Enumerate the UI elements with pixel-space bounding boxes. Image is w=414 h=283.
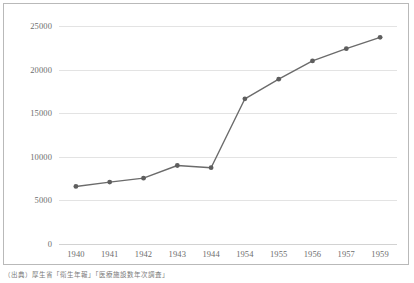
plot-area: 0500010000150002000025000 bbox=[59, 26, 397, 244]
y-tick-label: 15000 bbox=[30, 108, 52, 118]
data-point-marker bbox=[276, 77, 281, 82]
y-tick-label: 10000 bbox=[30, 152, 52, 162]
data-point-marker bbox=[344, 46, 349, 51]
series-line bbox=[76, 37, 380, 186]
y-tick-label: 5000 bbox=[35, 195, 52, 205]
data-point-marker bbox=[74, 184, 79, 189]
x-axis-labels: 1940194119421943194419541955195619571959 bbox=[59, 249, 397, 263]
gridline: 0 bbox=[59, 244, 397, 245]
data-point-marker bbox=[175, 163, 180, 168]
x-tick-label: 1954 bbox=[228, 249, 262, 259]
x-tick-label: 1942 bbox=[127, 249, 161, 259]
chart-frame: 0500010000150002000025000 19401941194219… bbox=[3, 3, 409, 265]
data-point-marker bbox=[141, 176, 146, 181]
x-tick-label: 1957 bbox=[329, 249, 363, 259]
y-tick-label: 20000 bbox=[30, 65, 52, 75]
y-tick-label: 25000 bbox=[30, 21, 52, 31]
data-point-marker bbox=[209, 165, 214, 170]
x-tick-label: 1944 bbox=[194, 249, 228, 259]
data-point-marker bbox=[243, 96, 248, 101]
y-tick-label: 0 bbox=[48, 239, 52, 249]
chart-caption: （出典）厚生省「衛生年報」「医療施設数年次調査」 bbox=[4, 271, 404, 280]
chart-figure: 0500010000150002000025000 19401941194219… bbox=[0, 0, 414, 283]
data-point-marker bbox=[378, 35, 383, 40]
x-tick-label: 1959 bbox=[363, 249, 397, 259]
data-point-marker bbox=[107, 180, 112, 185]
x-tick-label: 1955 bbox=[262, 249, 296, 259]
x-tick-label: 1956 bbox=[296, 249, 330, 259]
x-tick-label: 1941 bbox=[93, 249, 127, 259]
x-tick-label: 1940 bbox=[59, 249, 93, 259]
data-point-marker bbox=[310, 58, 315, 63]
line-series bbox=[59, 26, 397, 244]
x-tick-label: 1943 bbox=[160, 249, 194, 259]
